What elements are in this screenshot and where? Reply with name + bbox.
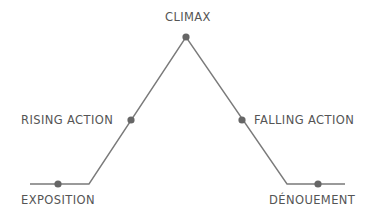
denouement-label: DÉNOUEMENT <box>269 192 356 207</box>
exposition-label: EXPOSITION <box>21 193 95 207</box>
falling-action-label: FALLING ACTION <box>254 113 354 127</box>
plot-diagram: EXPOSITION RISING ACTION CLIMAX FALLING … <box>0 0 371 220</box>
rising-action-label: RISING ACTION <box>21 113 113 127</box>
falling-action-point <box>238 116 245 123</box>
climax-label: CLIMAX <box>165 10 211 24</box>
rising-action-point <box>127 116 134 123</box>
denouement-point <box>314 180 321 187</box>
plot-line <box>30 37 345 184</box>
exposition-point <box>54 180 61 187</box>
climax-point <box>182 33 189 40</box>
